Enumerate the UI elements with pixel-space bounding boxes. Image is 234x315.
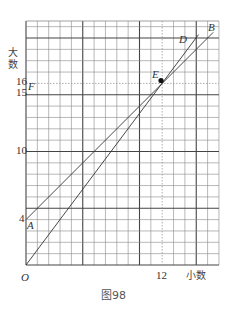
y-tick-10: 10 (16, 144, 28, 156)
point-label-d: D (178, 33, 187, 45)
point-e-marker (158, 78, 163, 83)
point-label-a: A (26, 219, 34, 231)
y-axis-label-2: 数 (8, 58, 18, 70)
x-axis-label: 小数 (186, 269, 206, 281)
y-axis-label-1: 大 (8, 46, 18, 58)
y-tick-4: 4 (19, 212, 25, 224)
diagram-figure: 大 数 小数 O 16 15 10 4 12 F A E D B 图98 (0, 0, 234, 315)
origin-label: O (21, 271, 29, 283)
point-label-b: B (208, 21, 215, 33)
figure-caption: 图98 (101, 289, 126, 302)
grid (26, 21, 219, 265)
line-od (26, 35, 199, 265)
point-label-f: F (27, 80, 35, 92)
point-label-e: E (151, 68, 159, 80)
x-tick-12: 12 (156, 269, 167, 281)
dotted-guides (26, 21, 219, 265)
y-tick-15: 15 (16, 86, 28, 98)
